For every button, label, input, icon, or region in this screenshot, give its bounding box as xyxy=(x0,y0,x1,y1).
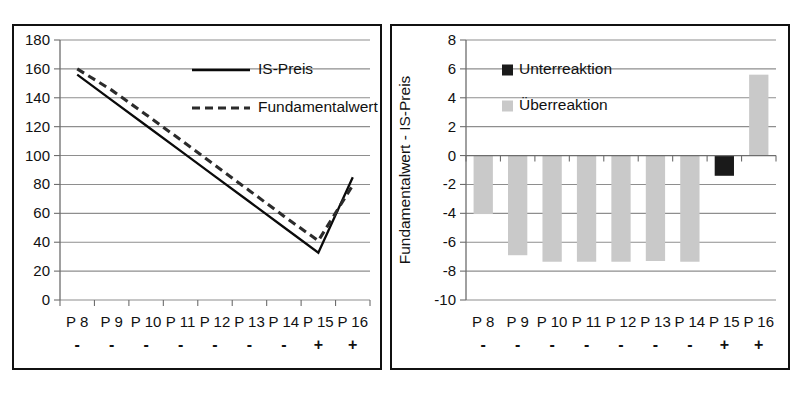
x-tick-label: P 16 xyxy=(743,313,774,330)
line-chart-series xyxy=(77,69,353,253)
x-tick-label: P 14 xyxy=(269,313,300,330)
y-tick-label: 160 xyxy=(25,60,50,77)
x-sign-label: - xyxy=(281,336,286,353)
line-chart-grid: 020406080100120140160180 xyxy=(25,31,370,308)
x-sign-label: + xyxy=(348,336,357,353)
y-tick-label: -6 xyxy=(443,233,456,250)
legend-swatch-ueberreaktion xyxy=(502,101,513,112)
bar-ueberreaktion xyxy=(611,156,630,262)
x-sign-label: - xyxy=(178,336,183,353)
x-sign-label: - xyxy=(687,336,692,353)
bar-ueberreaktion xyxy=(542,156,561,262)
figure-container: 020406080100120140160180P 8-P 9-P 10-P 1… xyxy=(0,0,809,419)
y-tick-label: 0 xyxy=(448,147,456,164)
x-tick-label: P 15 xyxy=(709,313,740,330)
bar-ueberreaktion xyxy=(646,156,665,261)
y-tick-label: 60 xyxy=(33,204,50,221)
bar-ueberreaktion xyxy=(680,156,699,262)
legend-label-fundamentalwert: Fundamentalwert xyxy=(258,98,378,115)
x-tick-label: P 14 xyxy=(675,313,706,330)
bar-ueberreaktion xyxy=(749,75,768,156)
y-tick-label: 0 xyxy=(42,291,50,308)
x-sign-label: - xyxy=(109,336,114,353)
x-sign-label: - xyxy=(549,336,554,353)
legend-swatch-unterreaktion xyxy=(502,65,513,76)
x-sign-label: - xyxy=(143,336,148,353)
y-tick-label: -2 xyxy=(443,175,456,192)
y-tick-label: -8 xyxy=(443,262,456,279)
x-tick-label: P 8 xyxy=(472,313,494,330)
x-tick-label: P 11 xyxy=(572,313,601,330)
x-sign-label: + xyxy=(754,336,763,353)
line-chart-svg: 020406080100120140160180P 8-P 9-P 10-P 1… xyxy=(14,26,380,368)
line-chart-plot-area: 020406080100120140160180P 8-P 9-P 10-P 1… xyxy=(14,26,380,368)
bar-ueberreaktion xyxy=(474,156,493,215)
bar-chart-panel: -10-8-6-4-202468P 8-P 9-P 10-P 11-P 12-P… xyxy=(390,24,790,370)
y-tick-label: 6 xyxy=(448,60,456,77)
x-tick-label: P 10 xyxy=(537,313,568,330)
bar-unterreaktion xyxy=(715,156,734,176)
x-tick-label: P 13 xyxy=(640,313,671,330)
y-tick-label: 100 xyxy=(25,147,50,164)
bar-chart-svg: -10-8-6-4-202468P 8-P 9-P 10-P 11-P 12-P… xyxy=(392,26,788,368)
x-tick-label: P 8 xyxy=(66,313,88,330)
x-tick-label: P 15 xyxy=(303,313,334,330)
bar-ueberreaktion xyxy=(508,156,527,256)
x-sign-label: - xyxy=(247,336,252,353)
bar-ueberreaktion xyxy=(577,156,596,262)
x-tick-label: P 12 xyxy=(606,313,637,330)
x-tick-label: P 11 xyxy=(166,313,195,330)
y-tick-label: 2 xyxy=(448,118,456,135)
y-tick-label: 4 xyxy=(448,89,456,106)
x-sign-label: - xyxy=(75,336,80,353)
line-chart-panel: 020406080100120140160180P 8-P 9-P 10-P 1… xyxy=(12,24,382,370)
x-tick-label: P 12 xyxy=(200,313,231,330)
x-sign-label: - xyxy=(584,336,589,353)
y-tick-label: 80 xyxy=(33,175,50,192)
y-tick-label: 8 xyxy=(448,31,456,48)
x-tick-label: P 9 xyxy=(507,313,529,330)
x-sign-label: - xyxy=(515,336,520,353)
legend-label-is-preis: IS-Preis xyxy=(258,60,313,77)
y-tick-label: -10 xyxy=(434,291,456,308)
bar-chart-plot-area: -10-8-6-4-202468P 8-P 9-P 10-P 11-P 12-P… xyxy=(392,26,788,368)
legend-label-unterreaktion: Unterreaktion xyxy=(519,60,612,77)
x-sign-label: - xyxy=(618,336,623,353)
x-sign-label: + xyxy=(720,336,729,353)
y-tick-label: 140 xyxy=(25,89,50,106)
x-tick-label: P 9 xyxy=(101,313,123,330)
y-tick-label: 180 xyxy=(25,31,50,48)
line-series-fundamentalwert xyxy=(77,69,353,241)
x-sign-label: - xyxy=(653,336,658,353)
x-tick-label: P 13 xyxy=(234,313,265,330)
bar-chart-bars xyxy=(474,75,769,262)
x-sign-label: - xyxy=(212,336,217,353)
x-sign-label: + xyxy=(314,336,323,353)
x-tick-label: P 10 xyxy=(131,313,162,330)
x-tick-label: P 16 xyxy=(337,313,368,330)
line-chart-x-axis: P 8-P 9-P 10-P 11-P 12-P 13-P 14-P 15+P … xyxy=(60,300,370,353)
y-tick-label: 40 xyxy=(33,233,50,250)
y-tick-label: 120 xyxy=(25,118,50,135)
y-tick-label: 20 xyxy=(33,262,50,279)
y-tick-label: -4 xyxy=(443,204,456,221)
bar-chart-legend: UnterreaktionÜberreaktion xyxy=(502,60,612,113)
x-sign-label: - xyxy=(481,336,486,353)
y-axis-title: Fundamentalwert - IS-Preis xyxy=(396,75,413,264)
legend-label-ueberreaktion: Überreaktion xyxy=(519,96,608,113)
